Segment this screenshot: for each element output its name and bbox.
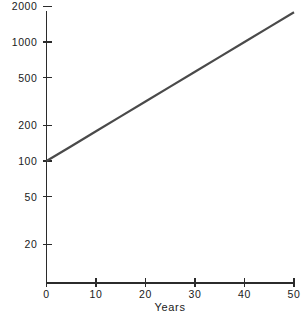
x-axis-title: Years (154, 301, 185, 313)
x-tick-label: 50 (288, 288, 301, 300)
x-tick-label: 30 (189, 288, 202, 300)
data-line-growth (47, 12, 295, 161)
x-tick-label: 20 (139, 288, 152, 300)
x-tick-label: 0 (43, 288, 49, 300)
y-tick-label: 1000 (12, 36, 38, 48)
x-tick-labels-group: 01020304050 (43, 288, 300, 300)
y-tick-marks-group (43, 6, 52, 244)
x-tick-marks-group (47, 278, 295, 287)
y-tick-label: 100 (18, 155, 37, 167)
y-tick-labels-group: 205010020050010002000 (12, 0, 38, 250)
y-tick-label: 50 (25, 191, 38, 203)
y-tick-label: 20 (25, 238, 38, 250)
x-tick-label: 40 (238, 288, 251, 300)
semilog-line-chart: 205010020050010002000 01020304050 Years (0, 0, 308, 317)
chart-container: 205010020050010002000 01020304050 Years (0, 0, 308, 317)
axis-spines (47, 11, 295, 284)
series-group (47, 12, 295, 161)
y-tick-label: 500 (18, 72, 37, 84)
y-tick-label: 200 (18, 119, 37, 131)
x-tick-label: 10 (90, 288, 103, 300)
axes-group (47, 11, 295, 284)
y-tick-label: 2000 (12, 0, 38, 12)
